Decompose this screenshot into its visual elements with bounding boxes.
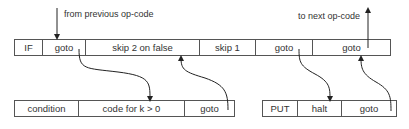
arrow-goto-to-halt bbox=[299, 49, 330, 99]
arrow-goto-to-skip2 bbox=[181, 58, 228, 110]
arrow-goto-to-last-goto bbox=[361, 58, 391, 111]
arrow-goto-to-code bbox=[79, 49, 150, 99]
arrows-layer bbox=[0, 0, 409, 129]
